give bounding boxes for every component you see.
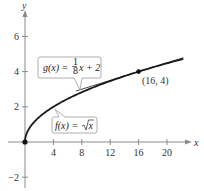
y-tick-label: −2 bbox=[8, 172, 19, 183]
svg-text:g(x) =: g(x) = bbox=[43, 62, 68, 74]
x-axis-label: x bbox=[193, 137, 199, 148]
chart-canvas: x y 48121620 −2246 (16, 4) g(x) = 1 8 x … bbox=[0, 0, 204, 191]
callout-g-denominator: 8 bbox=[73, 65, 78, 76]
point-label-16-4: (16, 4) bbox=[142, 75, 169, 87]
callout-g-prefix: g(x) = bbox=[43, 62, 68, 74]
y-tick-label: 2 bbox=[14, 101, 19, 112]
tangent-point bbox=[136, 69, 141, 74]
origin-point bbox=[22, 139, 27, 144]
callout-f: f(x) = x bbox=[52, 109, 97, 133]
x-axis-arrow-icon bbox=[185, 140, 192, 145]
x-tick-label: 8 bbox=[79, 147, 84, 158]
y-tick-label: 4 bbox=[14, 66, 19, 77]
y-axis-arrow-icon bbox=[23, 10, 28, 17]
y-axis-label: y bbox=[21, 0, 27, 11]
x-tick-label: 12 bbox=[105, 147, 115, 158]
x-tick-label: 4 bbox=[51, 147, 56, 158]
callout-g-suffix: x + 2 bbox=[78, 62, 100, 73]
callout-f-prefix: f(x) = bbox=[55, 120, 78, 132]
x-tick-label: 16 bbox=[134, 147, 144, 158]
x-tick-label: 20 bbox=[162, 147, 172, 158]
y-tick-label: 6 bbox=[14, 31, 19, 42]
callout-f-radicand: x bbox=[88, 120, 94, 131]
callout-g: g(x) = 1 8 x + 2 bbox=[38, 56, 101, 91]
axes: x y bbox=[8, 0, 199, 188]
